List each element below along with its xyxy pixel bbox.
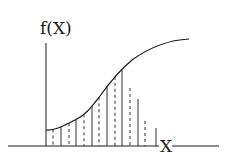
ordinate-lines [53,69,156,146]
x-axis-label: X [160,136,173,156]
function-curve [46,39,189,130]
riemann-sum-diagram: f(X) X [0,0,237,167]
y-axis-label: f(X) [40,18,72,38]
